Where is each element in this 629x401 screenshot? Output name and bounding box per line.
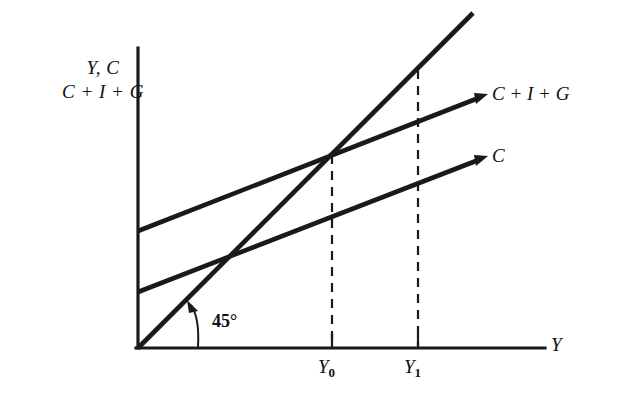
tick-label-y0-subscript: 0 (329, 365, 336, 380)
consumption-arrow-icon (474, 155, 488, 166)
tick-label-y1: Y1 (404, 355, 421, 381)
aggregate-expenditure-label: C + I + G (492, 82, 569, 106)
vertical-axis-caption-line1: Y, C (62, 56, 144, 80)
tick-label-y0-base: Y (318, 356, 329, 377)
tick-label-y0: Y0 (318, 355, 335, 381)
tick-label-y1-subscript: 1 (415, 365, 422, 380)
vertical-axis-caption: Y, C C + I + G (62, 56, 144, 104)
vertical-axis-caption-line2: C + I + G (62, 80, 144, 104)
horizontal-axis-label: Y (551, 333, 562, 357)
consumption-label: C (492, 144, 505, 168)
angle-arrow-icon (187, 300, 198, 313)
aggregate-expenditure-arrow-icon (474, 93, 488, 104)
tick-label-y1-base: Y (404, 356, 415, 377)
keynesian-cross-figure: Y, C C + I + G C + I + G C Y Y0 Y1 45° (0, 0, 629, 401)
aggregate-expenditure-line (138, 97, 481, 231)
angle-label: 45° (212, 310, 237, 333)
